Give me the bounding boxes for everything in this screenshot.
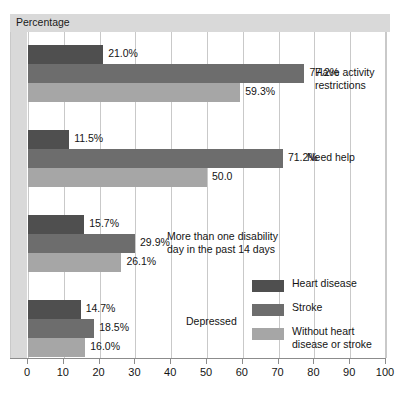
category-label: Have activity restrictions xyxy=(315,66,375,91)
bar-chart-figure: Percentage 21.0%77.2%59.3%11.5%71.2%50.0… xyxy=(0,0,404,394)
bar-value-label: 21.0% xyxy=(108,47,138,59)
bar[interactable] xyxy=(28,338,85,357)
x-tick-label: 70 xyxy=(271,366,283,378)
x-tick-mark xyxy=(242,359,243,364)
bar-row: 21.0% xyxy=(28,45,386,64)
x-tick-mark xyxy=(134,359,135,364)
x-tick-mark xyxy=(313,359,314,364)
bar[interactable] xyxy=(28,234,135,253)
legend-label: Stroke xyxy=(292,301,322,314)
axis-title: Percentage xyxy=(16,16,70,28)
legend-entry[interactable]: Stroke xyxy=(252,303,388,325)
x-tick-label: 90 xyxy=(343,366,355,378)
x-axis-line xyxy=(10,358,386,359)
legend-swatch xyxy=(252,304,284,316)
x-tick-mark xyxy=(349,359,350,364)
legend-label: Without heart disease or stroke xyxy=(292,325,372,350)
bar[interactable] xyxy=(28,64,304,83)
bar-value-label: 26.1% xyxy=(126,255,156,267)
x-tick-mark xyxy=(206,359,207,364)
x-tick-label: 0 xyxy=(24,366,30,378)
bar[interactable] xyxy=(28,319,94,338)
bar[interactable] xyxy=(28,45,103,64)
bar-value-label: 59.3% xyxy=(245,85,275,97)
bar-row: 11.5% xyxy=(28,130,386,149)
bar[interactable] xyxy=(28,83,240,102)
category-label: Depressed xyxy=(186,315,237,328)
axis-title-band: Percentage xyxy=(10,14,390,32)
bar-value-label: 14.7% xyxy=(86,302,116,314)
bar-value-label: 18.5% xyxy=(99,321,129,333)
legend-entry[interactable]: Without heart disease or stroke xyxy=(252,327,388,349)
x-tick-mark xyxy=(27,359,28,364)
x-tick-label: 40 xyxy=(164,366,176,378)
x-tick-mark xyxy=(170,359,171,364)
bar[interactable] xyxy=(28,300,81,319)
legend-label: Heart disease xyxy=(292,277,357,290)
x-tick-label: 80 xyxy=(307,366,319,378)
x-tick-mark xyxy=(99,359,100,364)
category-label: Need help xyxy=(307,151,355,164)
bar[interactable] xyxy=(28,149,283,168)
bar-value-label: 50.0 xyxy=(212,170,232,182)
left-margin-band xyxy=(11,32,27,358)
bar-value-label: 15.7% xyxy=(89,217,119,229)
chart-legend: Heart diseaseStrokeWithout heart disease… xyxy=(252,279,388,351)
legend-swatch xyxy=(252,328,284,340)
x-tick-label: 100 xyxy=(376,366,394,378)
x-tick-mark xyxy=(278,359,279,364)
bar-row: 26.1% xyxy=(28,253,386,272)
bar-value-label: 16.0% xyxy=(90,340,120,352)
bar-row: 50.0 xyxy=(28,168,386,187)
bar[interactable] xyxy=(28,215,84,234)
x-tick-mark xyxy=(63,359,64,364)
bar-value-label: 11.5% xyxy=(74,132,103,144)
bar[interactable] xyxy=(28,253,121,272)
x-tick-label: 60 xyxy=(236,366,248,378)
legend-swatch xyxy=(252,280,284,292)
bar[interactable] xyxy=(28,130,69,149)
bar[interactable] xyxy=(28,168,207,187)
x-tick-mark xyxy=(385,359,386,364)
x-tick-label: 50 xyxy=(200,366,212,378)
x-tick-label: 30 xyxy=(128,366,140,378)
x-tick-label: 20 xyxy=(92,366,104,378)
bar-value-label: 29.9% xyxy=(140,236,170,248)
legend-entry[interactable]: Heart disease xyxy=(252,279,388,301)
x-tick-label: 10 xyxy=(57,366,69,378)
category-label: More than one disability day in the past… xyxy=(167,230,278,255)
